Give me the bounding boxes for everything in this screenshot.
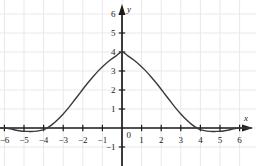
x-tick-label: −4 bbox=[39, 135, 49, 145]
x-tick-label: 4 bbox=[198, 135, 203, 145]
x-axis-label: x bbox=[243, 113, 248, 123]
x-tick-label: −3 bbox=[58, 135, 68, 145]
origin-label: 0 bbox=[127, 130, 132, 140]
x-tick-label: 2 bbox=[159, 135, 164, 145]
x-tick-label: −5 bbox=[19, 135, 29, 145]
x-tick-label: −2 bbox=[78, 135, 88, 145]
function-curve bbox=[0, 52, 251, 131]
y-tick-label: 6 bbox=[111, 9, 116, 19]
x-tick-label: 6 bbox=[237, 135, 242, 145]
y-tick-label: 5 bbox=[111, 28, 116, 38]
y-tick-label: 1 bbox=[111, 104, 116, 114]
x-tick-label: 5 bbox=[218, 135, 223, 145]
x-tick-label: 3 bbox=[179, 135, 184, 145]
coordinate-plane: −6−5−4−3−2−1123456−11234560 yx bbox=[0, 0, 256, 166]
y-axis-label: y bbox=[126, 4, 131, 14]
y-tick-label: 3 bbox=[111, 66, 116, 76]
graph-figure: −6−5−4−3−2−1123456−11234560 yx bbox=[0, 0, 256, 166]
axis-names: yx bbox=[126, 4, 248, 123]
y-tick-label: −1 bbox=[106, 142, 116, 152]
x-tick-label: −6 bbox=[0, 135, 10, 145]
curve-path bbox=[0, 52, 251, 131]
y-tick-label: 2 bbox=[111, 85, 116, 95]
x-tick-label: 1 bbox=[139, 135, 144, 145]
